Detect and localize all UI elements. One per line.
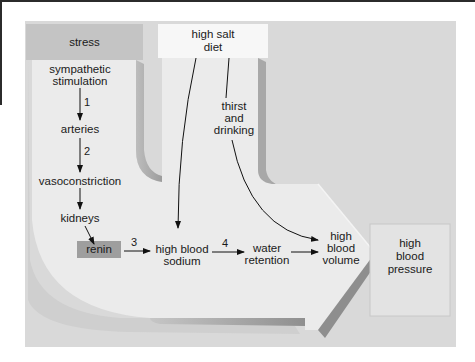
renin-label: renin	[77, 241, 121, 258]
pressure-label-line2: blood	[370, 250, 450, 263]
arteries-label: arteries	[30, 123, 130, 136]
step-number-1: 1	[84, 96, 90, 108]
stress-label: stress	[26, 24, 143, 60]
volume-label-line3: volume	[316, 254, 366, 267]
thirst-label-line3: drinking	[204, 124, 264, 137]
water-label-line2: retention	[242, 254, 292, 267]
kidneys-label: kidneys	[30, 212, 130, 225]
step-number-3: 3	[131, 236, 137, 248]
step-number-4: 4	[222, 237, 228, 249]
sodium-label-line2: sodium	[152, 255, 212, 268]
left-shaft-shadow	[136, 60, 162, 182]
high-salt-label-line2: diet	[158, 41, 268, 54]
step-number-2: 2	[84, 145, 90, 157]
pressure-label-line3: pressure	[370, 263, 450, 276]
vasoconstriction-label: vasoconstriction	[30, 175, 130, 188]
high-salt-label-line1: high salt	[158, 28, 268, 41]
sympathetic-label-line2: stimulation	[30, 75, 130, 88]
pressure-label-line1: high	[370, 237, 450, 250]
